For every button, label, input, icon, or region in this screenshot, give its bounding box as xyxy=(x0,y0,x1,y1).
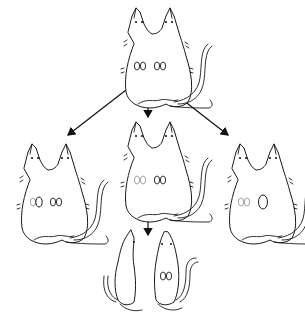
mouse-pair-top xyxy=(121,8,212,108)
parabiosis-diagram xyxy=(0,0,305,318)
arrow-to-left xyxy=(68,90,126,135)
mouse-pair-right xyxy=(225,144,305,244)
separated-mouse-right xyxy=(155,232,199,310)
mouse-pair-middle xyxy=(121,122,212,222)
mouse-pair-left xyxy=(17,144,108,244)
separated-mouse-left xyxy=(104,230,142,311)
